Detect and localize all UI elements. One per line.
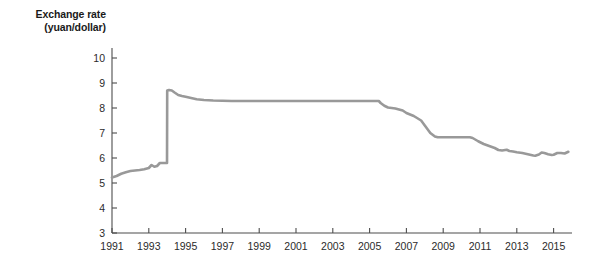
x-tick-label: 2001 — [284, 240, 308, 252]
x-tick-label: 1999 — [248, 240, 272, 252]
x-tick-label: 1993 — [137, 240, 161, 252]
y-tick-label: 8 — [99, 102, 105, 114]
x-tick-label: 2009 — [432, 240, 456, 252]
y-axis: 345678910 — [93, 48, 117, 239]
y-tick-label: 4 — [99, 202, 105, 214]
y-tick-label: 5 — [99, 177, 105, 189]
x-tick-label: 2003 — [321, 240, 345, 252]
y-tick-label: 9 — [99, 77, 105, 89]
y-tick-label: 3 — [99, 227, 105, 239]
x-axis: 1991199319951997199920012003200520072009… — [100, 228, 572, 252]
x-tick-label: 2011 — [469, 240, 492, 252]
x-tick-label: 1997 — [211, 240, 235, 252]
x-tick-group: 1991199319951997199920012003200520072009… — [100, 228, 565, 252]
y-tick-label: 10 — [93, 52, 105, 64]
y-tick-group: 345678910 — [93, 52, 117, 239]
exchange-rate-line — [112, 90, 568, 178]
y-tick-label: 6 — [99, 152, 105, 164]
x-tick-label: 2005 — [358, 240, 382, 252]
x-tick-label: 2007 — [395, 240, 419, 252]
x-tick-label: 1995 — [174, 240, 198, 252]
data-series-group — [112, 90, 568, 178]
chart-page: Exchange rate (yuan/dollar) 345678910 19… — [0, 0, 600, 265]
x-tick-label: 2013 — [505, 240, 529, 252]
x-tick-label: 2015 — [542, 240, 566, 252]
line-chart-plot: 345678910 199119931995199719992001200320… — [0, 0, 600, 265]
y-tick-label: 7 — [99, 127, 105, 139]
x-tick-label: 1991 — [100, 240, 124, 252]
